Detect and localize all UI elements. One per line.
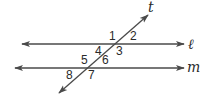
angle-1-label: 1 — [109, 29, 116, 43]
angle-3-label: 3 — [116, 44, 123, 58]
parallel-lines-transversal-diagram: ℓ m t 1 2 3 4 5 6 7 8 — [0, 0, 210, 99]
line-l-label: ℓ — [188, 36, 194, 52]
angle-4-label: 4 — [95, 44, 102, 58]
transversal-t-label: t — [148, 0, 154, 15]
angle-2-label: 2 — [130, 29, 137, 43]
angle-5-label: 5 — [81, 53, 88, 67]
angle-7-label: 7 — [88, 68, 95, 82]
angle-8-label: 8 — [66, 68, 73, 82]
line-m-label: m — [187, 59, 200, 75]
angle-6-label: 6 — [102, 53, 109, 67]
